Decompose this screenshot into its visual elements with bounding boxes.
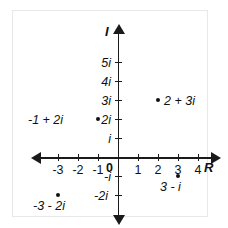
plot-frame: -3 -2 -1 1 2 3 4 0 5i 4i 3i 2i i -i -2i … <box>12 10 208 217</box>
tick-x-minus3 <box>58 154 59 161</box>
tick-x-4 <box>198 154 199 161</box>
tick-x-2 <box>158 154 159 161</box>
tick-label-x-minus3: -3 <box>47 164 69 177</box>
tick-label-x-2: 2 <box>147 164 169 177</box>
tick-label-x-1: 1 <box>127 164 149 177</box>
tick-label-y-minus-i: -i <box>85 171 111 184</box>
tick-x-3 <box>178 154 179 161</box>
tick-y-minus-i <box>115 176 122 177</box>
tick-y-4i <box>115 81 122 82</box>
point-label-minus1-plus-2i: -1 + 2i <box>28 114 63 127</box>
imaginary-axis-arrow-up-icon <box>113 24 125 34</box>
imaginary-axis-arrow-down-icon <box>113 215 125 225</box>
tick-y-2i <box>115 119 122 120</box>
point-label-2-plus-3i: 2 + 3i <box>164 95 195 108</box>
tick-y-i <box>115 138 122 139</box>
tick-y-5i <box>115 62 122 63</box>
real-axis-arrow-left-icon <box>31 152 41 164</box>
tick-label-y-5i: 5i <box>85 57 111 70</box>
tick-label-y-minus-2i: -2i <box>82 190 108 203</box>
real-axis-label: R <box>204 161 213 174</box>
tick-y-3i <box>115 100 122 101</box>
point-marker-minus3-minus-2i <box>56 193 61 198</box>
point-marker-2-plus-3i <box>156 98 161 103</box>
point-label-3-minus-i: 3 - i <box>160 181 181 194</box>
point-marker-3-minus-i <box>176 174 181 179</box>
tick-label-y-4i: 4i <box>85 76 111 89</box>
imaginary-axis-line <box>118 33 120 217</box>
tick-x-minus1 <box>98 154 99 161</box>
point-label-minus3-minus-2i: -3 - 2i <box>33 200 65 213</box>
tick-y-minus-2i <box>115 195 122 196</box>
tick-label-y-i: i <box>85 133 111 146</box>
complex-plane-figure: -3 -2 -1 1 2 3 4 0 5i 4i 3i 2i i -i -2i … <box>0 0 228 228</box>
tick-x-minus2 <box>78 154 79 161</box>
imaginary-axis-label: I <box>105 25 109 38</box>
real-axis-line <box>39 157 213 159</box>
tick-x-1 <box>138 154 139 161</box>
tick-label-y-3i: 3i <box>85 95 111 108</box>
